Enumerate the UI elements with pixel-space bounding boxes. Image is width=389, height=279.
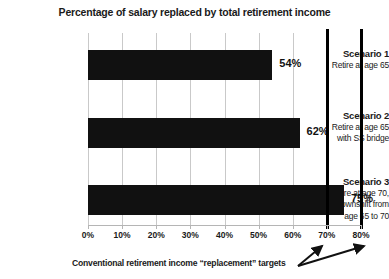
tick-mark-0 (88, 225, 89, 229)
tick-mark-60 (293, 225, 294, 229)
annotation-caption: Conventional retirement income “replacem… (72, 258, 286, 268)
retirement-income-bar-chart: Percentage of salary replaced by total r… (0, 0, 389, 279)
bar-scenario-2 (88, 118, 300, 148)
tick-mark-50 (259, 225, 260, 229)
tick-mark-70 (327, 225, 328, 229)
tick-label-20: 20% (148, 230, 165, 240)
reference-line-70 (326, 29, 329, 229)
tick-label-60: 60% (284, 230, 301, 240)
annotation-arrows-icon (296, 240, 382, 270)
tick-label-40: 40% (216, 230, 233, 240)
reference-line-80 (360, 29, 363, 229)
tick-mark-80 (361, 225, 362, 229)
tick-mark-30 (190, 225, 191, 229)
tick-label-50: 50% (250, 230, 267, 240)
tick-mark-40 (225, 225, 226, 229)
tick-label-0: 0% (82, 230, 94, 240)
plot-area: 54%62%75% (88, 33, 361, 225)
bar-scenario-1 (88, 50, 272, 80)
bar-scenario-3 (88, 185, 344, 215)
tick-label-30: 30% (182, 230, 199, 240)
tick-label-70: 70% (318, 230, 335, 240)
tick-label-80: 80% (352, 230, 369, 240)
tick-mark-10 (122, 225, 123, 229)
tick-mark-20 (156, 225, 157, 229)
chart-title: Percentage of salary replaced by total r… (0, 6, 389, 18)
tick-label-10: 10% (114, 230, 131, 240)
bar-value-label-scenario-1: 54% (279, 57, 301, 69)
